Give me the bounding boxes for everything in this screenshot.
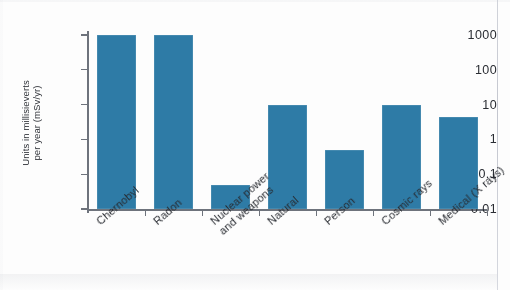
bar-chernobyl[interactable]	[97, 35, 137, 209]
x-axis-tick	[145, 210, 146, 216]
y-axis-tick	[81, 139, 88, 140]
x-axis-tick	[316, 210, 317, 216]
y-axis-line	[87, 31, 89, 213]
y-axis-tick-label: 10	[423, 98, 497, 112]
y-axis-title-line-1: Units in millisieverts	[20, 48, 31, 198]
y-axis-title: Units in millisieverts per year (mSv/yr)	[20, 48, 42, 198]
radiation-dose-bar-chart: Units in millisieverts per year (mSv/yr)…	[0, 0, 497, 290]
x-axis-tick	[259, 210, 260, 216]
bar-radon[interactable]	[154, 35, 194, 209]
y-axis-tick	[81, 69, 88, 70]
y-axis-tick-label: 100	[423, 63, 497, 77]
x-axis-tick	[202, 210, 203, 216]
page-right-border	[497, 0, 498, 290]
y-axis-tick	[81, 174, 88, 175]
y-axis-tick	[81, 104, 88, 105]
y-axis-tick	[81, 208, 88, 209]
x-axis-tick	[373, 210, 374, 216]
y-axis-title-line-2: per year (mSv/yr)	[31, 48, 42, 198]
y-axis-tick	[81, 34, 88, 35]
x-axis-tick	[487, 210, 488, 216]
y-axis-tick-label: 1000	[423, 28, 497, 42]
x-axis-tick	[430, 210, 431, 216]
